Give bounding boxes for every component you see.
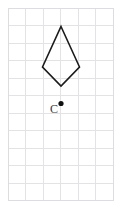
geometry-figure: C <box>0 0 122 219</box>
figure-container: C <box>0 0 122 219</box>
center-point-label: C <box>50 102 58 116</box>
center-point-dot <box>58 101 63 106</box>
